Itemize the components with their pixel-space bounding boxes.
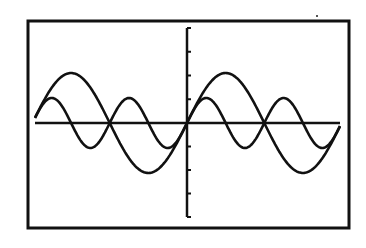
- graph-screen: [0, 0, 366, 248]
- scan-speck: [316, 15, 318, 17]
